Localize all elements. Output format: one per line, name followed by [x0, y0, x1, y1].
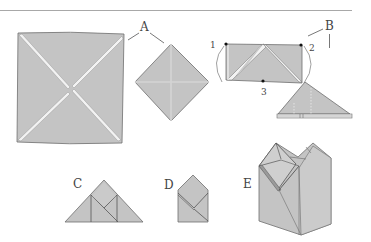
label-d: D [164, 178, 174, 192]
fold-arrow-left [216, 46, 224, 82]
point-label-2: 2 [309, 43, 315, 53]
step-e-box [259, 143, 331, 235]
step-b-rectangle [226, 44, 302, 83]
step-a-square [17, 32, 124, 144]
label-c: C [73, 177, 82, 191]
point-label-3: 3 [261, 87, 267, 97]
label-a: A [139, 20, 149, 34]
point-1-dot [224, 42, 227, 45]
step-a-diamond [135, 44, 209, 121]
point-2-dot [299, 43, 302, 46]
point-3-dot [261, 79, 264, 82]
leader-line-a-right [150, 33, 164, 43]
label-e: E [243, 177, 252, 191]
leader-line-b [308, 29, 323, 36]
step-d-house [178, 175, 208, 222]
label-b: B [325, 19, 334, 33]
origami-diagram: A 1 2 3 B C [0, 0, 371, 242]
leader-line-a-left [128, 33, 139, 40]
step-b-triangle [277, 82, 352, 118]
point-label-1: 1 [210, 40, 216, 50]
